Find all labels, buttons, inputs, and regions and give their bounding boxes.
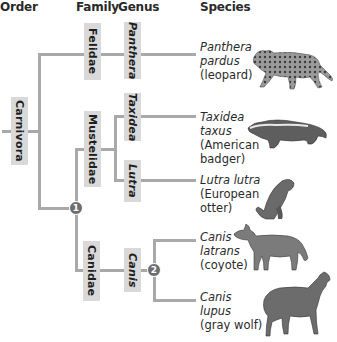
branch-coyote xyxy=(153,239,196,242)
order-label-carnivora: Carnivora xyxy=(11,97,28,165)
header-order: Order xyxy=(0,0,38,14)
branch-wolf xyxy=(153,299,196,302)
branch-mustelidae-vertical xyxy=(114,115,117,182)
species-leopard: Panthera pardus (leopard) xyxy=(200,40,252,82)
divergence-node-2: 2 xyxy=(147,263,161,277)
header-family: Family xyxy=(76,0,119,14)
genus-label-taxidea: Taxidea xyxy=(124,93,141,141)
family-label-mustelidae: Mustelidae xyxy=(84,111,101,187)
header-genus: Genus xyxy=(118,0,159,14)
gray-wolf-illustration-icon xyxy=(260,270,336,340)
genus-label-lutra: Lutra xyxy=(124,160,141,202)
family-label-canidae: Canidae xyxy=(83,241,100,301)
branch-felidae xyxy=(38,53,196,56)
divergence-node-1: 1 xyxy=(69,201,83,215)
species-gray-wolf: Canis lupus (gray wolf) xyxy=(200,290,262,332)
branch-carnivora-vertical xyxy=(38,53,41,210)
genus-label-canis: Canis xyxy=(124,248,141,292)
badger-illustration-icon xyxy=(246,116,332,152)
genus-label-panthera: Panthera xyxy=(124,22,141,79)
coyote-illustration-icon xyxy=(232,222,328,272)
leopard-illustration-icon xyxy=(248,45,336,100)
family-label-felidae: Felidae xyxy=(84,23,101,80)
header-species: Species xyxy=(200,0,250,14)
otter-illustration-icon xyxy=(252,175,298,223)
